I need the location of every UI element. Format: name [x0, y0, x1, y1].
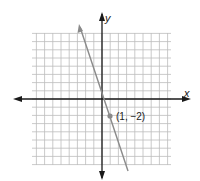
point-marker	[107, 113, 112, 118]
x-axis-label: x	[183, 87, 190, 99]
point-label: (1, −2)	[116, 111, 145, 122]
x-axis-left-arrow-icon	[13, 96, 22, 102]
y-axis-bottom-arrow-icon	[99, 171, 105, 180]
y-axis-label: y	[104, 12, 112, 24]
coordinate-plane: x y (1, −2)	[0, 0, 200, 181]
